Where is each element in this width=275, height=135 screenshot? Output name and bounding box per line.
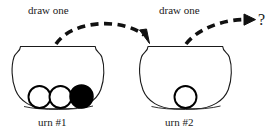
arrow-2-group: [186, 14, 256, 44]
arrow-2-dashed-path: [186, 20, 245, 45]
urn-2-group: [140, 47, 232, 110]
draw-one-label-2: draw one: [159, 5, 200, 16]
urn-1-ball-white-1: [29, 86, 51, 108]
urn-diagram: draw one draw one urn #1 urn #2 ?: [0, 0, 275, 135]
arrow-1-arrowhead-icon: [140, 29, 150, 44]
draw-one-label-1: draw one: [28, 5, 69, 16]
arrow-1-dashed-path: [56, 24, 144, 44]
urn-2-ball-white-1: [175, 86, 197, 108]
urn-1-ball-black-1: [70, 85, 93, 108]
urn-1-group: [12, 47, 104, 110]
arrow-1-group: [56, 24, 150, 44]
urn-1-label: urn #1: [38, 117, 66, 128]
urn-1-ball-white-2: [50, 86, 72, 108]
question-mark-label: ?: [258, 12, 265, 28]
urn-2-label: urn #2: [165, 117, 193, 128]
arrow-2-arrowhead-icon: [244, 14, 256, 25]
urn-diagram-graphics: [0, 0, 275, 135]
